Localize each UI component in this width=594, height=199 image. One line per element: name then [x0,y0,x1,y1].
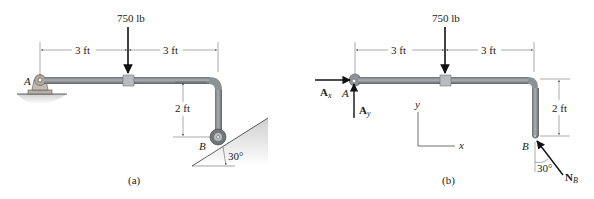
pin-base [28,90,52,94]
point-a-label-a: A [23,75,31,87]
axis-y-label: y [414,98,420,110]
angle-label-a: 30° [228,150,243,162]
dim-right-a: 3 ft [163,44,178,56]
pipe-vertical-b [532,88,539,136]
caption-b: (b) [442,174,455,187]
force-nb-label: NB [565,171,578,185]
point-a-label-b: A [341,87,349,99]
force-ay-label: Ay [359,104,371,118]
load-label-a: 750 lb [117,12,145,24]
figure-b: 750 lb 3 ft 3 ft 2 ft Ax Ay A y x 30° [315,12,578,187]
dim-vertical-a: 2 ft [175,102,190,114]
collar [123,75,134,86]
dim-right-b: 3 ft [481,44,496,56]
diagram-canvas: 30° 750 lb 3 ft 3 ft 2 ft A B (a) [0,0,594,199]
point-b-label-a: B [199,140,206,152]
load-label-b: 750 lb [432,12,460,24]
collar-b [440,75,451,86]
figure-a: 30° 750 lb 3 ft 3 ft 2 ft A B (a) [17,12,268,187]
ground-a [17,94,67,104]
caption-a: (a) [128,174,141,187]
point-b-label-b: B [522,140,529,152]
angle-label-b: 30° [537,162,552,174]
pin-icon [38,78,42,82]
force-ax-label: Ax [320,86,332,100]
dim-vertical-b: 2 ft [552,102,567,114]
axis-x-label: x [458,139,464,151]
pipe-vertical [215,90,222,132]
dim-left-a: 3 ft [75,44,90,56]
dim-left-b: 3 ft [391,44,406,56]
